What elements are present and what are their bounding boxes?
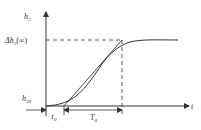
tangent-line: [64, 40, 122, 106]
y-axis-label: h2: [24, 12, 31, 22]
final-value-label: Δh2(∞): [4, 36, 28, 46]
response-curve: [46, 40, 178, 106]
dead-time-label: τ0: [51, 112, 57, 122]
time-constant-label: T0: [90, 113, 97, 123]
step-response-diagram: h2 Δh2(∞) h20 τ0 T0 t: [0, 0, 201, 130]
initial-value-label: h20: [22, 94, 32, 104]
x-axis-label: t: [191, 102, 194, 111]
